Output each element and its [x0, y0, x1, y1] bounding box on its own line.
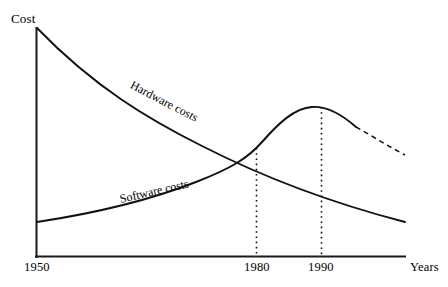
y-axis-label: Cost [11, 12, 36, 25]
software-costs-projection-dashed [356, 127, 405, 155]
x-tick-label-1980: 1980 [244, 261, 270, 274]
x-axis-label: Years [410, 261, 439, 274]
x-tick-label-1950: 1950 [24, 261, 50, 274]
software-costs-curve [37, 107, 356, 222]
chart-plot-area [0, 0, 448, 287]
hardware-costs-curve [37, 28, 405, 222]
cost-trends-chart: Cost Years 1950 1980 1990 Hardware costs… [0, 0, 448, 287]
x-tick-label-1990: 1990 [308, 261, 334, 274]
